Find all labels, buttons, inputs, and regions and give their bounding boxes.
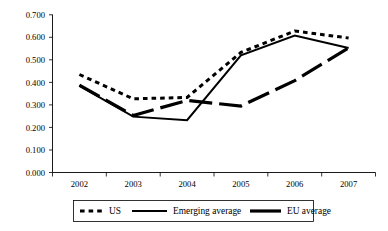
legend-item-emerging-average[interactable]: Emerging average [132, 206, 241, 216]
legend-item-us[interactable]: US [80, 206, 121, 216]
x-tick-label: 2006 [286, 179, 304, 189]
y-tick-label: 0.600 [26, 32, 45, 42]
legend-label-eu-average: EU average [287, 206, 331, 216]
y-tick-label: 0.400 [26, 78, 45, 88]
y-tick-label: 0.100 [26, 145, 45, 155]
chart-canvas: 0.000 0.100 0.200 0.300 0.400 0.500 0.60… [0, 0, 388, 231]
series-line-eu-average [79, 48, 348, 116]
x-axis-ticks [53, 173, 376, 177]
legend-item-eu-average[interactable]: EU average [250, 206, 331, 216]
y-tick-label: 0.500 [26, 55, 45, 65]
y-tick-label: 0.200 [26, 123, 45, 133]
x-tick-label: 2004 [179, 179, 197, 189]
y-tick-label: 0.700 [26, 10, 45, 20]
x-tick-label: 2005 [232, 179, 249, 189]
x-tick-label: 2007 [340, 179, 358, 189]
legend-label-emerging-average: Emerging average [173, 206, 241, 216]
line-chart: 0.000 0.100 0.200 0.300 0.400 0.500 0.60… [0, 0, 388, 231]
series-group [79, 31, 348, 120]
chart-legend: US Emerging average EU average [74, 201, 331, 222]
y-axis-ticks [49, 15, 53, 173]
x-axis-tick-labels: 2002 2003 2004 2005 2006 2007 [71, 179, 358, 189]
y-tick-label: 0.300 [26, 100, 45, 110]
y-tick-label: 0.000 [26, 168, 45, 178]
y-axis-tick-labels: 0.000 0.100 0.200 0.300 0.400 0.500 0.60… [26, 10, 45, 178]
x-tick-label: 2003 [125, 179, 142, 189]
x-tick-label: 2002 [71, 179, 88, 189]
legend-label-us: US [109, 206, 121, 216]
